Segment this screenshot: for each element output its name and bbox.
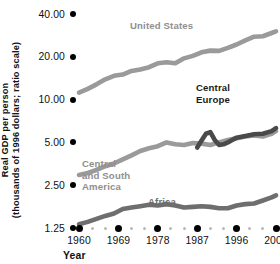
y-tick-label: 40.00 [38, 9, 65, 20]
x-tick-minor-dot [261, 227, 264, 230]
x-tick-dot [194, 225, 201, 232]
x-axis-tick-dots [0, 225, 280, 235]
y-tick-dot [70, 11, 76, 17]
x-tick-dot [115, 225, 122, 232]
y-tick: 10.00 [8, 93, 76, 107]
x-tick-label: 1978 [146, 235, 170, 246]
y-tick-dot [70, 54, 76, 60]
x-tick-label: 1996 [225, 235, 249, 246]
x-tick-minor-dot [169, 227, 172, 230]
x-tick-minor-dot [183, 227, 186, 230]
x-tick-minor-dot [248, 227, 251, 230]
y-tick-label: 2.50 [44, 180, 65, 191]
x-tick-label: 1960 [67, 235, 91, 246]
x-tick-minor-dot [222, 227, 225, 230]
y-tick: 2.50 [8, 178, 76, 192]
y-tick-label: 5.00 [44, 137, 65, 148]
series-line [79, 31, 276, 92]
y-tick-label: 20.00 [38, 51, 65, 62]
x-tick-minor-dot [143, 227, 146, 230]
y-tick: 20.00 [8, 50, 76, 64]
x-tick-minor-dot [130, 227, 133, 230]
series-label-central-europe: Central Europe [196, 82, 230, 105]
x-tick-label: 1969 [107, 235, 131, 246]
y-tick: 40.00 [8, 7, 76, 21]
gdp-per-person-line-chart: Real GDP per person (thousands of 1996 d… [0, 0, 280, 264]
x-axis-title: Year [63, 250, 86, 261]
x-tick-label: 1987 [185, 235, 209, 246]
x-tick-dot [233, 225, 240, 232]
y-tick-label: 10.00 [38, 94, 65, 105]
y-tick-dot [70, 182, 76, 188]
y-tick-dot [70, 97, 76, 103]
x-tick-dot [273, 225, 280, 232]
x-tick-minor-dot [91, 227, 94, 230]
series-label-united-states: United States [130, 20, 193, 32]
x-tick-minor-dot [209, 227, 212, 230]
x-tick-minor-dot [104, 227, 107, 230]
series-label-central-and-south-america: Central and South America [82, 158, 130, 193]
series-line [79, 195, 276, 224]
series-label-africa: Africa [148, 196, 176, 208]
y-tick-dot [70, 139, 76, 145]
x-tick-label: 2005 [264, 235, 280, 246]
y-tick: 5.00 [8, 135, 76, 149]
x-tick-dot [76, 225, 83, 232]
x-tick-dot [154, 225, 161, 232]
